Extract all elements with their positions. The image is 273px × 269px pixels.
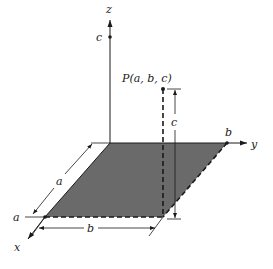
point-p-label: P(a, b, c)	[121, 72, 172, 85]
x-axis-label: x	[14, 241, 21, 254]
base-rectangle	[45, 143, 227, 217]
y-mark-dot	[225, 141, 229, 145]
dim-b-right-extension	[149, 217, 163, 236]
dim-b-left-extension	[32, 217, 45, 235]
y-mark-label: b	[225, 126, 232, 139]
x-mark-label: a	[13, 211, 20, 224]
dim-a-label: a	[56, 175, 63, 188]
coordinate-diagram: z c y b x a P(a, b, c) c a b	[0, 0, 273, 269]
dim-c-label: c	[171, 116, 177, 129]
point-p-dot	[161, 87, 165, 91]
z-mark-dot	[108, 35, 112, 39]
dim-b-label: b	[87, 222, 94, 235]
z-mark-label: c	[96, 31, 102, 44]
y-axis-label: y	[250, 138, 258, 151]
z-axis-label: z	[105, 3, 112, 16]
